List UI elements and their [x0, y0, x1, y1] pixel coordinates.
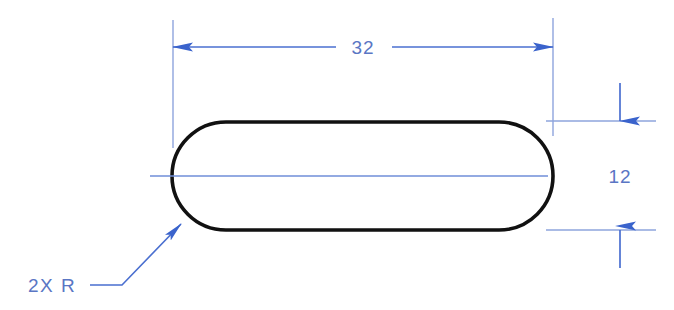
- radius-note-label: 2X R: [28, 275, 76, 296]
- radius-note-group: 2X R: [28, 224, 181, 296]
- radius-leader-line: [90, 224, 181, 285]
- dimension-width-12: 12: [608, 83, 631, 268]
- technical-drawing-canvas: 32 12 2X R: [0, 0, 674, 310]
- extension-lines-group: [173, 18, 656, 230]
- dimension-label-length: 32: [351, 37, 374, 58]
- dimension-label-width: 12: [608, 166, 631, 187]
- drawing-svg-root: 32 12 2X R: [0, 0, 674, 310]
- dimension-length-32: 32: [173, 37, 553, 58]
